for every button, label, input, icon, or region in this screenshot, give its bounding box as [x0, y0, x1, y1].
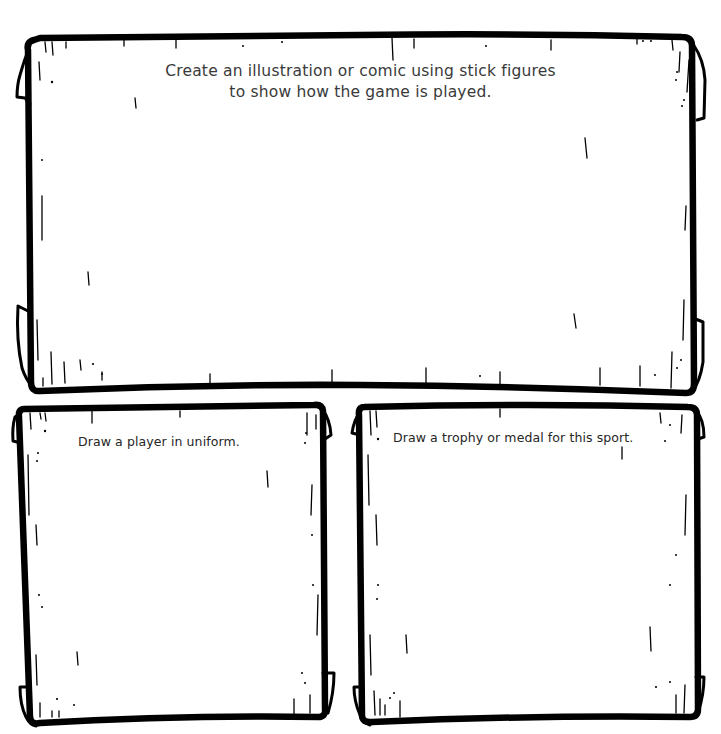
- prompt-line-1: Create an illustration or comic using st…: [0, 61, 721, 82]
- panel-prompt: Draw a trophy or medal for this sport.: [393, 430, 633, 446]
- prompt-line-2: to show how the game is played.: [0, 82, 721, 103]
- panel-prompt: Create an illustration or comic using st…: [0, 61, 721, 103]
- panel-stick-figure-comic: Create an illustration or comic using st…: [0, 0, 721, 400]
- panel-player-uniform: Draw a player in uniform.: [0, 395, 340, 734]
- drawing-area-player[interactable]: [34, 457, 316, 712]
- drawing-area-comic[interactable]: [40, 110, 680, 375]
- drawing-area-trophy[interactable]: [370, 455, 690, 710]
- panel-prompt: Draw a player in uniform.: [78, 434, 240, 450]
- panel-trophy-medal: Draw a trophy or medal for this sport.: [340, 395, 721, 734]
- worksheet-page: Create an illustration or comic using st…: [0, 0, 721, 734]
